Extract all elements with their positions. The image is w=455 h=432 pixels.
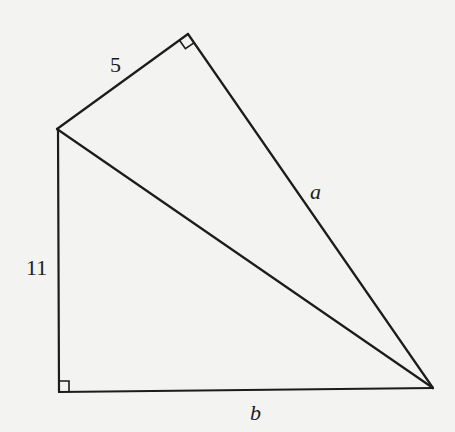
edge-diagonal-hypotenuse xyxy=(57,129,433,388)
label-side-11: 11 xyxy=(26,255,47,280)
right-angle-marker-top xyxy=(180,40,194,49)
right-angle-marker-bottom-left xyxy=(59,381,69,392)
label-side-a: a xyxy=(310,179,321,204)
edge-left-bottom xyxy=(58,129,59,392)
edge-left-top xyxy=(57,34,188,129)
right-triangles-diagram: 5 a 11 b xyxy=(0,0,455,432)
edge-top-right xyxy=(188,34,433,388)
edge-bottom xyxy=(59,388,433,392)
label-side-b: b xyxy=(250,400,261,425)
label-side-5: 5 xyxy=(110,52,121,77)
